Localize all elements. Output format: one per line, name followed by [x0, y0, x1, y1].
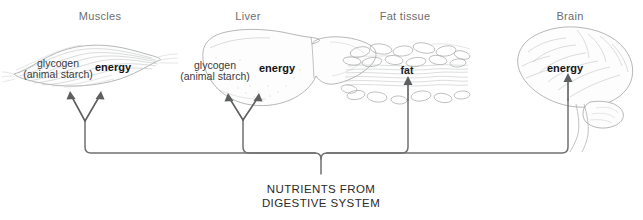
nutrient-flow-connectors	[67, 73, 573, 174]
liver-energy-label: energy	[259, 63, 295, 75]
muscle-glycogen-label: glycogen (animal starch)	[23, 58, 92, 81]
source-caption-line2: DIGESTIVE SYSTEM	[262, 196, 380, 210]
nutrient-distribution-diagram: .ill { fill: none; stroke: #a7a8aa; stro…	[0, 0, 643, 220]
liver-glycogen-line2: (animal starch)	[180, 71, 249, 82]
brain-energy-label: energy	[547, 63, 583, 75]
fat-tissue-fat-label: fat	[401, 65, 414, 76]
muscle-glycogen-line2: (animal starch)	[23, 69, 92, 80]
organ-title-brain: Brain	[556, 10, 583, 22]
muscle-energy-label: energy	[95, 62, 131, 74]
source-caption-line1: NUTRIENTS FROM	[262, 182, 380, 196]
source-caption: NUTRIENTS FROM DIGESTIVE SYSTEM	[262, 182, 380, 211]
arrow-to-muscle-glycogen	[67, 91, 86, 121]
organ-title-liver: Liver	[235, 10, 260, 22]
brain-illustration	[518, 27, 633, 152]
organ-title-fat-tissue: Fat tissue	[380, 10, 431, 22]
arrow-to-muscle-energy	[85, 91, 105, 121]
organ-title-muscles: Muscles	[79, 10, 121, 22]
liver-glycogen-label: glycogen (animal starch)	[180, 60, 249, 83]
